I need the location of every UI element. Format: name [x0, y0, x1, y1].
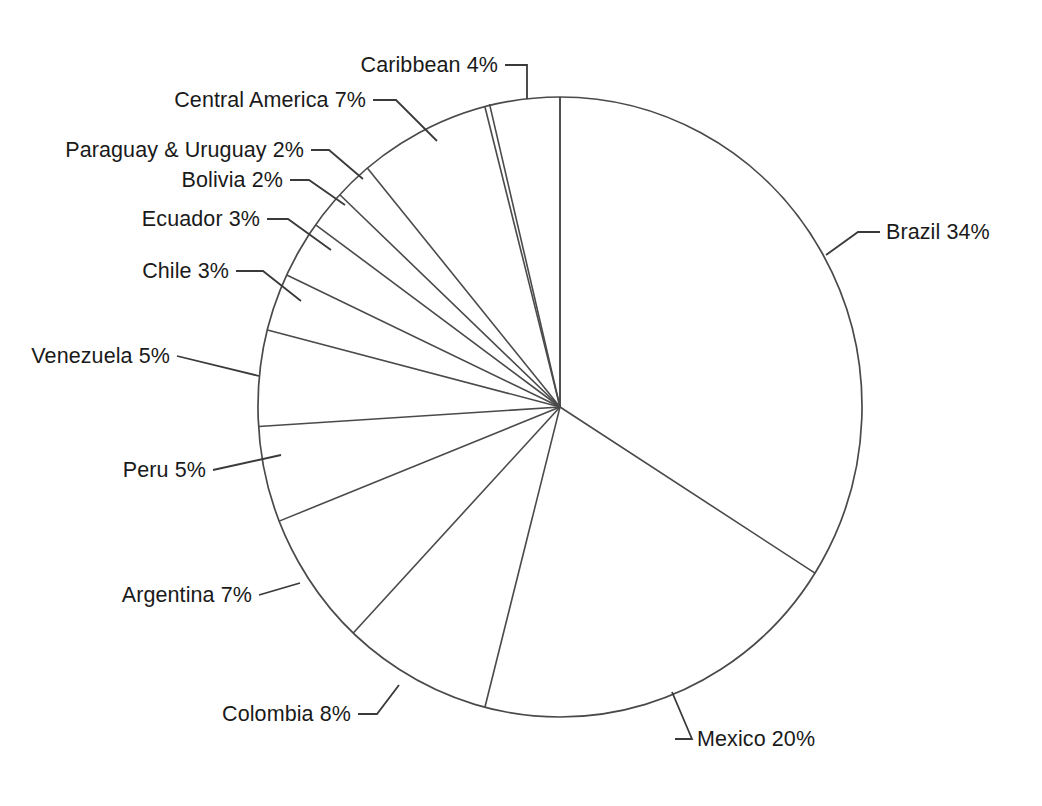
slice-brazil[interactable]	[560, 97, 815, 573]
slice-label-ecuador: Ecuador 3%	[142, 207, 260, 231]
slice-label-paraguay-uruguay: Paraguay & Uruguay 2%	[65, 138, 304, 162]
slice-peru[interactable]	[259, 407, 560, 426]
leader-line-peru	[213, 455, 281, 470]
slice-label-brazil: Brazil 34%	[886, 220, 990, 244]
leader-line-chile	[236, 271, 301, 301]
slice-label-colombia: Colombia 8%	[222, 702, 351, 726]
leader-line-central-america	[373, 100, 437, 141]
slice-label-bolivia: Bolivia 2%	[182, 168, 283, 192]
slice-label-venezuela: Venezuela 5%	[31, 344, 170, 368]
leader-line-ecuador	[267, 219, 331, 250]
slice-label-peru: Peru 5%	[123, 458, 206, 482]
pie-chart-canvas: Caribbean 4% Central America 7% Paraguay…	[0, 0, 1042, 806]
slice-colombia[interactable]	[353, 407, 560, 633]
slice-argentina[interactable]	[279, 407, 560, 521]
pie-chart-figure: Caribbean 4% Central America 7% Paraguay…	[0, 0, 1042, 806]
slice-label-chile: Chile 3%	[142, 259, 229, 283]
slice-bolivia[interactable]	[340, 195, 560, 407]
slice-venezuela[interactable]	[267, 330, 560, 407]
leader-line-paraguay-uruguay	[311, 150, 363, 179]
slice-chile[interactable]	[287, 275, 560, 407]
pie-slices	[258, 97, 862, 717]
leader-line-bolivia	[290, 180, 345, 205]
leader-line-venezuela	[177, 356, 259, 376]
slice-paraguay-uruguay[interactable]	[368, 168, 561, 407]
slice-label-central-america: Central America 7%	[174, 88, 366, 112]
slice-mexico[interactable]	[485, 407, 560, 707]
leader-line-brazil	[826, 232, 880, 255]
leader-line-caribbean	[505, 65, 527, 99]
leader-line-mexico	[672, 692, 692, 739]
leader-lines	[177, 65, 880, 739]
slice-label-caribbean: Caribbean 4%	[361, 53, 498, 77]
slice-label-mexico: Mexico 20%	[697, 727, 815, 751]
slice-label-argentina: Argentina 7%	[122, 583, 252, 607]
slice-labels: Caribbean 4% Central America 7% Paraguay…	[31, 53, 989, 751]
leader-line-argentina	[259, 583, 300, 595]
leader-line-colombia	[358, 685, 399, 714]
